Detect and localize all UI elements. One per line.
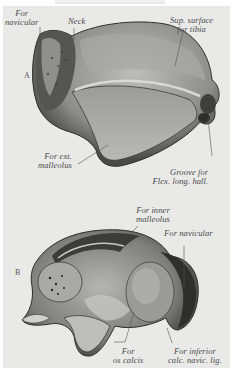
- label-os-calcis: For os calcis: [113, 347, 143, 365]
- label-line: Flex. long. hall.: [148, 177, 208, 186]
- label-for-navicular-a: For navicular: [5, 9, 38, 27]
- label-line: Neck: [68, 17, 85, 26]
- label-line: for tibia: [170, 25, 213, 34]
- label-groove-flex-long-hall: Groove for Flex. long. hall.: [148, 168, 208, 186]
- label-line: os calcis: [113, 356, 143, 365]
- panel-a-bone: [33, 22, 220, 166]
- label-inferior-calc-navic-lig: For inferior calc. navic. lig.: [168, 347, 222, 365]
- label-neck: Neck: [68, 17, 85, 26]
- label-ext-malleolus: For ext. malleolus: [38, 152, 72, 170]
- label-inner-malleolus: For inner malleolus: [136, 206, 170, 224]
- label-sup-surface-tibia: Sup. surface for tibia: [170, 16, 213, 34]
- label-for-navicular-b: For navicular: [164, 229, 213, 238]
- talus-illustration: [0, 0, 235, 374]
- label-line: calc. navic. lig.: [168, 356, 222, 365]
- panel-marker-a: A: [24, 71, 30, 80]
- panel-marker-b: B: [15, 268, 20, 277]
- label-line: navicular: [5, 18, 38, 27]
- label-line: malleolus: [38, 161, 72, 170]
- panel-b-bone: [22, 230, 198, 356]
- label-line: For navicular: [164, 229, 213, 238]
- label-line: malleolus: [136, 215, 170, 224]
